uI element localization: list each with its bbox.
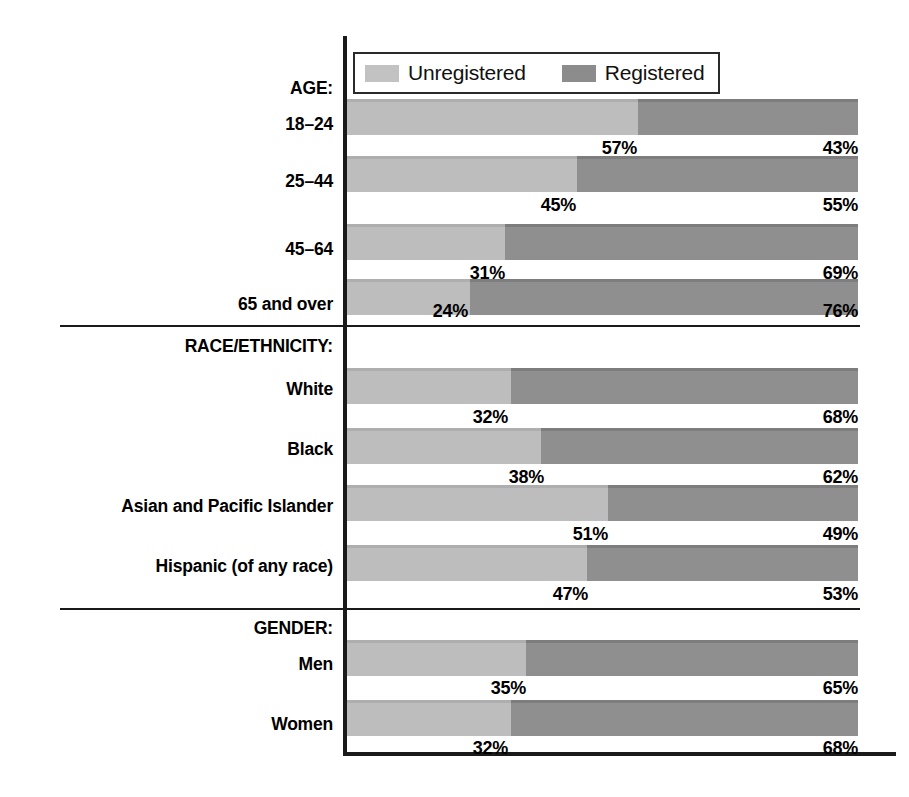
row-label-black: Black: [0, 439, 333, 460]
legend-item-registered[interactable]: Registered: [562, 61, 705, 85]
value-registered-women: 68%: [738, 738, 858, 759]
bar-segment-unregistered: [347, 428, 541, 464]
group-heading-age: AGE:: [0, 78, 333, 99]
legend-swatch-unregistered-icon: [365, 65, 399, 82]
row-label-men: Men: [0, 654, 333, 675]
section-divider-race-gender: [60, 608, 860, 610]
legend-swatch-registered-icon: [562, 65, 596, 82]
bar-segment-unregistered: [347, 700, 511, 736]
value-registered-hispanic-of-any-race: 53%: [738, 584, 858, 605]
row-label-hispanic-of-any-race: Hispanic (of any race): [0, 556, 333, 577]
table-row[interactable]: [347, 368, 858, 404]
row-label-women: Women: [0, 714, 333, 735]
value-registered-25-44: 55%: [738, 195, 858, 216]
row-label-65-and-over: 65 and over: [0, 294, 333, 315]
group-heading-race: RACE/ETHNICITY:: [0, 336, 333, 357]
value-registered-65-and-over: 76%: [738, 301, 858, 322]
value-unregistered-25-44: 45%: [456, 195, 576, 216]
legend-label-registered: Registered: [605, 61, 705, 85]
bar-segment-unregistered: [347, 640, 526, 676]
row-label-white: White: [0, 379, 333, 400]
value-unregistered-white: 32%: [388, 407, 508, 428]
table-row[interactable]: [347, 428, 858, 464]
value-unregistered-hispanic-of-any-race: 47%: [468, 584, 588, 605]
value-registered-white: 68%: [738, 407, 858, 428]
row-label-asian-and-pacific-islander: Asian and Pacific Islander: [0, 496, 333, 517]
stacked-bar-chart: Unregistered Registered AGE: RACE/ETHNIC…: [0, 0, 909, 797]
table-row[interactable]: [347, 224, 858, 260]
table-row[interactable]: [347, 640, 858, 676]
bar-segment-registered: [541, 428, 858, 464]
table-row[interactable]: [347, 99, 858, 135]
bar-segment-unregistered: [347, 485, 608, 521]
bar-segment-unregistered: [347, 224, 505, 260]
row-label-45-64: 45–64: [0, 239, 333, 260]
legend-item-unregistered[interactable]: Unregistered: [365, 61, 526, 85]
value-registered-asian-and-pacific-islander: 49%: [738, 524, 858, 545]
table-row[interactable]: [347, 545, 858, 581]
row-label-25-44: 25–44: [0, 171, 333, 192]
bar-segment-unregistered: [347, 99, 638, 135]
bar-segment-registered: [577, 156, 858, 192]
value-unregistered-men: 35%: [406, 678, 526, 699]
bar-segment-registered: [526, 640, 858, 676]
legend-label-unregistered: Unregistered: [408, 61, 526, 85]
row-label-18-24: 18–24: [0, 114, 333, 135]
bar-segment-unregistered: [347, 545, 587, 581]
group-heading-gender: GENDER:: [0, 618, 333, 639]
bar-segment-registered: [638, 99, 858, 135]
bar-segment-registered: [608, 485, 858, 521]
bar-segment-registered: [505, 224, 858, 260]
value-unregistered-women: 32%: [388, 738, 508, 759]
section-divider-age-race: [60, 325, 860, 327]
value-registered-men: 65%: [738, 678, 858, 699]
table-row[interactable]: [347, 700, 858, 736]
bar-segment-unregistered: [347, 368, 511, 404]
bar-segment-registered: [587, 545, 858, 581]
bar-segment-unregistered: [347, 156, 577, 192]
bar-segment-registered: [511, 700, 858, 736]
bar-segment-registered: [511, 368, 858, 404]
table-row[interactable]: [347, 156, 858, 192]
value-unregistered-65-and-over: 24%: [348, 301, 468, 322]
table-row[interactable]: [347, 485, 858, 521]
chart-legend: Unregistered Registered: [353, 52, 720, 94]
value-unregistered-asian-and-pacific-islander: 51%: [488, 524, 608, 545]
